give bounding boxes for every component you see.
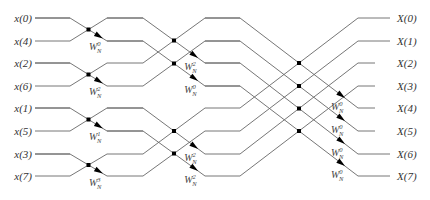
input-label: x(0) (13, 12, 32, 25)
input-label: x(2) (13, 57, 32, 70)
wire (107, 18, 205, 63)
twiddle-factor-label: W0N (184, 83, 197, 97)
wire (35, 18, 107, 41)
twiddle-factor-label: W0N (89, 40, 102, 54)
twiddle-factor-label: W3N (89, 176, 102, 190)
wire (107, 18, 205, 63)
fft-butterfly-diagram: x(0)x(4)x(2)x(6)x(1)x(5)x(3)x(7) X(0)X(1… (0, 0, 430, 200)
twiddle-factor-label: W2N (184, 173, 197, 187)
butterfly-node-dot (87, 28, 91, 32)
wire (35, 154, 107, 176)
twiddle-arrow-icon (336, 136, 346, 146)
output-label: X(4) (396, 102, 417, 115)
twiddle-factor-label: W0N (331, 146, 344, 160)
butterfly-node-dot (297, 84, 301, 88)
butterfly-node-dot (87, 118, 91, 122)
twiddle-factor-label: W0N (331, 123, 344, 137)
twiddle-arrow-icon (94, 167, 104, 176)
wire (35, 154, 107, 176)
output-label: X(5) (396, 125, 417, 138)
twiddle-arrow-icon (94, 122, 104, 131)
twiddle-factor-label: W2N (89, 85, 102, 99)
input-label: x(1) (13, 102, 32, 115)
twiddle-arrow-icon (336, 159, 346, 169)
output-label: X(0) (396, 12, 417, 25)
twiddle-arrow-icon (94, 32, 104, 41)
input-label: x(5) (13, 125, 32, 138)
output-label: X(6) (396, 148, 417, 161)
butterfly-node-dot (87, 163, 91, 167)
wire (35, 63, 107, 86)
twiddle-arrow-icon (189, 74, 199, 83)
butterfly-node-dot (87, 73, 91, 77)
output-label: X(7) (396, 170, 417, 183)
output-label: X(2) (396, 57, 417, 70)
wire (35, 108, 107, 131)
wire (35, 63, 107, 86)
wire (35, 108, 107, 131)
butterfly-node-dot (172, 62, 176, 66)
twiddle-arrow-icon (189, 164, 199, 173)
twiddle-arrow-icon (94, 77, 104, 86)
butterfly-node-dot (297, 61, 301, 65)
output-labels: X(0)X(1)X(2)X(3)X(4)X(5)X(6)X(7) (396, 12, 417, 183)
twiddle-factor-label: W0N (331, 168, 344, 182)
butterfly-node-dot (172, 129, 176, 133)
twiddle-factor-label: W1N (89, 130, 102, 144)
wire (35, 18, 107, 41)
twiddle-arrow-icon (336, 114, 346, 124)
input-label: x(6) (13, 80, 32, 93)
twiddle-factor-label: W0N (331, 100, 344, 114)
input-label: x(3) (13, 148, 32, 161)
output-label: X(3) (396, 80, 417, 93)
butterfly-node-dot (297, 129, 301, 133)
twiddle-arrow-icon (189, 141, 199, 151)
output-label: X(1) (396, 35, 417, 48)
butterfly-node-dot (297, 107, 301, 111)
input-label: x(4) (13, 35, 32, 48)
twiddle-arrow-icon (189, 51, 199, 60)
butterfly-node-dot (172, 152, 176, 156)
input-labels: x(0)x(4)x(2)x(6)x(1)x(5)x(3)x(7) (13, 12, 32, 183)
butterfly-node-dot (172, 39, 176, 43)
input-label: x(7) (13, 170, 32, 183)
twiddle-factor-label: W2N (184, 151, 197, 165)
twiddle-factor-label: W2N (184, 60, 197, 74)
